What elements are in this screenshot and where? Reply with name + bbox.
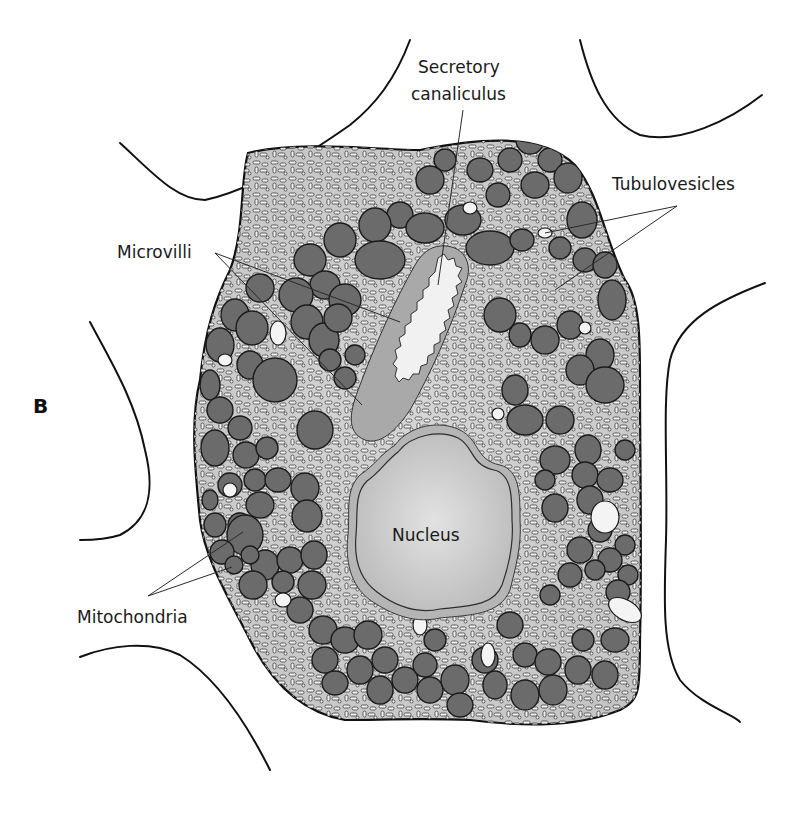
neighbor-outline-top-right <box>580 40 762 137</box>
neighbor-outline-right <box>665 283 765 722</box>
nucleus-label: Nucleus <box>392 525 460 545</box>
microvilli-label: Microvilli <box>117 242 192 262</box>
panel-letter: B <box>33 394 48 418</box>
parietal-cell: Nucleus <box>190 126 650 730</box>
secretory-canaliculus-label-line2: canaliculus <box>411 84 506 104</box>
secretory-canaliculus-label-line1: Secretory <box>418 57 500 77</box>
neighbor-outline-left <box>80 322 150 540</box>
parietal-cell-diagram: Nucleus B Secretory canaliculus Tubulove… <box>0 0 801 831</box>
neighbor-outline-bottom-left <box>80 646 270 770</box>
mitochondria-label: Mitochondria <box>77 607 188 627</box>
tubulovesicles-label: Tubulovesicles <box>611 174 735 194</box>
